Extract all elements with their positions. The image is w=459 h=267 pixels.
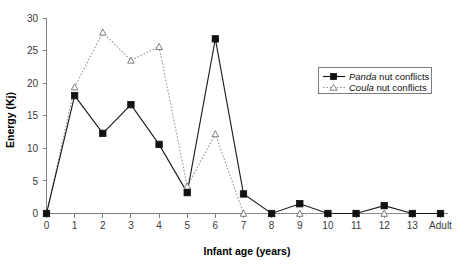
data-point-panda [268,210,274,216]
y-axis-title: Energy (Kj) [4,92,16,148]
data-point-panda [240,191,246,197]
y-tick-label: 5 [32,176,38,187]
data-point-panda [156,141,162,147]
legend-marker-square-icon [331,74,337,80]
line-chart: 051015202530 012345678910111213Adult Ene… [0,0,459,267]
data-point-panda [353,210,359,216]
x-axis-title: Infant age (years) [204,245,291,257]
y-axis-ticks [43,18,47,214]
data-point-panda [381,202,387,208]
data-point-panda [437,210,443,216]
y-tick-label: 0 [32,208,38,219]
y-tick-label: 15 [27,110,39,121]
legend-label-coula: Coula nut conflicts [349,82,427,93]
x-tick-label: 6 [213,220,219,231]
y-tick-label: 20 [27,78,39,89]
legend-label-panda: Panda nut conflicts [349,71,430,82]
series-line-panda [47,39,441,214]
x-tick-label: 3 [128,220,134,231]
data-point-coula [71,84,78,90]
data-point-panda [43,210,49,216]
data-point-coula [128,57,135,63]
x-tick-label: 7 [241,220,247,231]
data-point-panda [325,210,331,216]
data-point-panda [100,130,106,136]
y-tick-label: 25 [27,45,39,56]
data-point-panda [297,201,303,207]
chart-figure: 051015202530 012345678910111213Adult Ene… [0,0,459,267]
x-tick-label: Adult [429,220,452,231]
chart-legend[interactable]: Panda nut conflicts Coula nut conflicts [319,68,432,94]
series-line-coula [47,32,441,213]
data-point-coula [156,43,163,49]
data-point-coula [184,183,191,189]
x-tick-label: 1 [72,220,78,231]
y-axis-tick-labels: 051015202530 [27,13,39,220]
data-point-panda [184,189,190,195]
data-point-panda [71,92,77,98]
data-point-coula [99,29,106,35]
x-tick-label: 4 [156,220,162,231]
x-tick-label: 9 [297,220,303,231]
x-tick-label: 0 [44,220,50,231]
data-point-coula [212,131,219,137]
x-axis-tick-labels: 012345678910111213Adult [44,220,452,231]
x-tick-label: 5 [184,220,190,231]
series-markers-panda [43,36,443,217]
data-point-panda [212,36,218,42]
y-tick-label: 30 [27,13,39,24]
x-tick-label: 10 [322,220,334,231]
x-tick-label: 12 [379,220,391,231]
y-tick-label: 10 [27,143,39,154]
x-tick-label: 2 [100,220,106,231]
x-tick-label: 8 [269,220,275,231]
x-tick-label: 11 [351,220,362,231]
x-tick-label: 13 [407,220,419,231]
series-markers-coula [43,29,444,216]
data-point-panda [409,210,415,216]
data-point-panda [128,101,134,107]
